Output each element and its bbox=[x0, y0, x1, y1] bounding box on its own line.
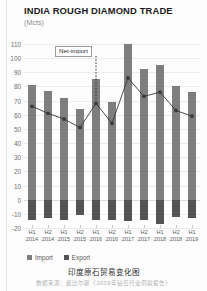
y-axis-tick-label: 110 bbox=[11, 41, 21, 48]
net-import-line bbox=[32, 78, 192, 128]
x-axis-tick-mark bbox=[64, 225, 65, 228]
y-axis-tick-label: 10 bbox=[14, 182, 21, 189]
net-import-marker[interactable] bbox=[158, 90, 162, 94]
x-tick-year: 2017 bbox=[138, 236, 150, 242]
x-tick-half: H2 bbox=[140, 229, 147, 235]
x-tick-half: H2 bbox=[76, 229, 83, 235]
x-tick-half: H2 bbox=[172, 229, 179, 235]
x-tick-year: 2014 bbox=[42, 236, 54, 242]
x-axis-tick-label: H22018 bbox=[170, 229, 182, 243]
net-import-marker[interactable] bbox=[110, 121, 114, 125]
x-axis-tick-mark bbox=[32, 225, 33, 228]
y-axis-tick-label: 70 bbox=[14, 97, 21, 104]
y-axis-tick-label: 30 bbox=[14, 154, 21, 161]
net-import-marker[interactable] bbox=[46, 111, 50, 115]
legend-item-import[interactable]: Import bbox=[27, 254, 53, 261]
x-tick-year: 2017 bbox=[122, 236, 134, 242]
x-axis-tick-label: H12016 bbox=[90, 229, 102, 243]
x-axis-tick-label: H22015 bbox=[74, 229, 86, 243]
x-tick-year: 2015 bbox=[74, 236, 86, 242]
x-axis-tick-mark bbox=[112, 225, 113, 228]
x-axis-tick-mark bbox=[160, 225, 161, 228]
y-axis-tick-label: 90 bbox=[14, 69, 21, 76]
x-tick-year: 2016 bbox=[90, 236, 102, 242]
y-axis-tick-label: 50 bbox=[14, 125, 21, 132]
net-import-marker[interactable] bbox=[190, 114, 194, 118]
x-tick-year: 2019 bbox=[186, 236, 198, 242]
figure-caption: 印度原石贸易变化图 bbox=[0, 266, 207, 277]
x-tick-half: H2 bbox=[44, 229, 51, 235]
x-axis-tick-mark bbox=[96, 225, 97, 228]
net-import-marker[interactable] bbox=[126, 76, 130, 80]
x-tick-year: 2015 bbox=[58, 236, 70, 242]
net-import-marker[interactable] bbox=[142, 94, 146, 98]
y-axis-tick-label: 0 bbox=[17, 196, 21, 203]
x-axis-tick-label: H22016 bbox=[106, 229, 118, 243]
x-tick-year: 2016 bbox=[106, 236, 118, 242]
y-axis-tick-label: 40 bbox=[14, 140, 21, 147]
x-axis-tick-label: H22017 bbox=[138, 229, 150, 243]
y-axis-tick-label: 100 bbox=[10, 55, 21, 62]
y-axis-tick-label: 20 bbox=[14, 168, 21, 175]
x-axis-tick-mark bbox=[48, 225, 49, 228]
x-tick-half: H1 bbox=[28, 229, 35, 235]
x-tick-half: H1 bbox=[92, 229, 99, 235]
x-axis-tick-mark bbox=[128, 225, 129, 228]
x-axis: H12014H22014H12015H22015H12016H22016H120… bbox=[24, 228, 200, 248]
x-axis-tick-label: H12019 bbox=[186, 229, 198, 243]
chart-legend: Import Export bbox=[27, 254, 90, 261]
net-import-annotation: Net-import bbox=[55, 46, 92, 57]
x-axis-tick-label: H12017 bbox=[122, 229, 134, 243]
x-axis-tick-label: H12014 bbox=[26, 229, 38, 243]
x-axis-tick-label: H12015 bbox=[58, 229, 70, 243]
x-tick-half: H1 bbox=[188, 229, 195, 235]
legend-item-export[interactable]: Export bbox=[64, 254, 90, 261]
x-tick-half: H1 bbox=[60, 229, 67, 235]
y-axis-tick-label: 80 bbox=[14, 83, 21, 90]
x-tick-year: 2018 bbox=[170, 236, 182, 242]
plot-area: 1101009080706050403020100-10-20 Net-impo… bbox=[24, 44, 200, 228]
page-title: INDIA ROUGH DIAMOND TRADE bbox=[24, 5, 173, 16]
chart-units-subtitle: (Mcts) bbox=[24, 18, 44, 27]
page-edge-rule bbox=[6, 0, 7, 291]
x-axis-tick-mark bbox=[80, 225, 81, 228]
x-axis-tick-mark bbox=[144, 225, 145, 228]
y-axis-tick-label: -20 bbox=[12, 225, 21, 232]
legend-label-import: Import bbox=[35, 254, 53, 261]
net-import-marker[interactable] bbox=[62, 117, 66, 121]
legend-swatch-export-icon bbox=[64, 255, 69, 260]
x-tick-year: 2018 bbox=[154, 236, 166, 242]
x-axis-tick-mark bbox=[192, 225, 193, 228]
net-import-marker[interactable] bbox=[78, 126, 82, 130]
net-import-marker[interactable] bbox=[30, 104, 34, 108]
y-axis-tick-label: -10 bbox=[12, 210, 21, 217]
x-axis-tick-mark bbox=[176, 225, 177, 228]
x-axis-tick-label: H22014 bbox=[42, 229, 54, 243]
figure-source: 数据来源：戴比尔斯《2019年钻石行业洞察报告》 bbox=[0, 279, 207, 287]
x-tick-half: H2 bbox=[108, 229, 115, 235]
net-import-marker[interactable] bbox=[174, 109, 178, 113]
x-axis-tick-label: H12018 bbox=[154, 229, 166, 243]
legend-label-export: Export bbox=[72, 254, 90, 261]
legend-swatch-import-icon bbox=[27, 255, 32, 260]
x-tick-year: 2014 bbox=[26, 236, 38, 242]
net-import-line-layer bbox=[24, 44, 200, 228]
chart-page: INDIA ROUGH DIAMOND TRADE (Mcts) 1101009… bbox=[0, 0, 207, 291]
y-axis-tick-label: 60 bbox=[14, 111, 21, 118]
x-tick-half: H1 bbox=[124, 229, 131, 235]
x-tick-half: H1 bbox=[156, 229, 163, 235]
